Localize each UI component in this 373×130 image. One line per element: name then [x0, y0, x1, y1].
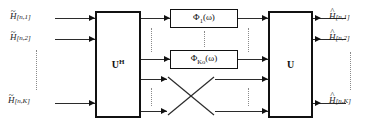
- mid-left-ellipsis-dots-2: [151, 88, 152, 106]
- output-arrow-2-icon: [315, 36, 321, 42]
- hat-accent-icon: ^: [329, 91, 336, 100]
- input-label-2: ~H[n,2]: [10, 33, 31, 42]
- output-label-k: ^H[n,K]: [329, 96, 351, 105]
- input-label-k: ~H[n,K]: [8, 96, 30, 105]
- synthesis-transform-block[interactable]: U: [268, 11, 313, 118]
- filter-ellipsis-dots: [204, 31, 205, 47]
- post-ellipsis-dots: [248, 28, 249, 52]
- filter-block-ko[interactable]: ΦKo(ω): [170, 50, 238, 69]
- output-ellipsis-dots: [350, 52, 351, 90]
- post-wire-3: [215, 79, 268, 80]
- filter-block-ko-label: ΦKo(ω): [191, 54, 217, 65]
- output-arrow-1-icon: [315, 15, 321, 21]
- output-label-2: ^H[n,2]: [329, 33, 350, 42]
- mid-left-ellipsis-dots: [151, 28, 152, 52]
- x-crossover-icon: [167, 76, 215, 116]
- block-diagram: ~H[n,1] ~H[n,2] ~H[n,K] UH Φ1(ω) ΦKo(ω): [0, 0, 373, 130]
- tilde-accent-icon: ~: [10, 28, 17, 37]
- input-label-1: ~H[n,1]: [10, 12, 31, 21]
- tilde-accent-icon: ~: [8, 91, 15, 100]
- post-ellipsis-dots-2: [248, 88, 249, 106]
- analysis-transform-block[interactable]: UH: [95, 11, 141, 118]
- hat-accent-icon: ^: [329, 7, 336, 16]
- synthesis-block-label: U: [287, 60, 294, 70]
- post-wire-4: [215, 111, 268, 112]
- tilde-accent-icon: ~: [10, 7, 17, 16]
- hat-accent-icon: ^: [329, 28, 336, 37]
- output-label-1: ^H[n,1]: [329, 12, 350, 21]
- output-arrow-k-icon: [315, 100, 321, 106]
- input-ellipsis-dots: [36, 50, 37, 90]
- filter-block-1-label: Φ1(ω): [193, 13, 215, 24]
- analysis-block-label: UH: [112, 59, 125, 70]
- filter-block-1[interactable]: Φ1(ω): [170, 9, 238, 28]
